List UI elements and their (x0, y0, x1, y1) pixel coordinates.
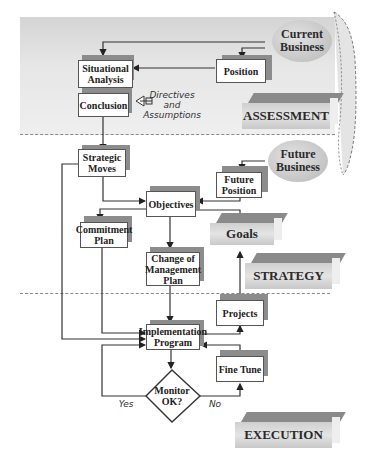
monitor-decision-label: Monitor OK? (152, 384, 192, 408)
execution-label: EXECUTION (235, 422, 332, 448)
assessment-phase-slab: ASSESSMENT (242, 93, 338, 129)
directives-annotation: Directives and Assumptions (142, 90, 202, 120)
slab-top (241, 412, 346, 422)
position-box: Position (216, 59, 266, 83)
strategy-label: STRATEGY (245, 263, 332, 289)
conclusion-box: Conclusion (78, 93, 129, 117)
assessment-label: ASSESSMENT (242, 103, 330, 129)
fine-tune-box: Fine Tune (216, 356, 264, 382)
situational-analysis-box: Situational Analysis (78, 60, 133, 88)
current-business-ellipse: Current Business (272, 20, 332, 62)
future-business-ellipse: Future Business (268, 140, 328, 182)
future-position-box: Future Position (216, 172, 262, 198)
slab-side (332, 417, 340, 443)
change-of-management-plan-box: Change of Management Plan (146, 252, 200, 286)
slab-side (274, 218, 282, 240)
yes-label: Yes (116, 399, 136, 409)
objectives-box: Objectives (146, 191, 196, 217)
projects-box: Projects (216, 300, 264, 326)
commitment-plan-box: Commitment Plan (80, 222, 128, 248)
goals-slab: Goals (210, 213, 282, 245)
strategy-phase-slab: STRATEGY (245, 253, 340, 289)
goals-label: Goals (210, 223, 274, 245)
slab-side (330, 98, 338, 124)
slab-side (332, 258, 340, 284)
strategic-moves-box: Strategic Moves (78, 149, 126, 177)
implementation-program-box: Implementation Program (146, 324, 200, 350)
no-label: No (206, 399, 224, 409)
execution-phase-slab: EXECUTION (235, 412, 340, 448)
